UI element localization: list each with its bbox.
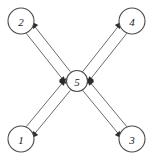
node-4[interactable]: 4 xyxy=(119,8,145,34)
node-5[interactable]: 5 xyxy=(67,71,88,92)
node-5-label: 5 xyxy=(74,76,80,88)
edge-line-5-to-1 xyxy=(34,90,70,134)
graph-diagram: 2 4 5 1 3 xyxy=(0,0,154,162)
edge-group-1-5 xyxy=(26,78,70,139)
edge-line-4-to-5 xyxy=(90,33,127,79)
edge-line-5-to-2 xyxy=(34,26,70,72)
edge-line-3-to-5 xyxy=(90,82,127,126)
node-3-label: 3 xyxy=(128,134,135,146)
node-3[interactable]: 3 xyxy=(119,126,145,152)
edge-line-5-to-3 xyxy=(83,90,119,134)
node-2[interactable]: 2 xyxy=(8,8,34,34)
edge-group-4-5 xyxy=(83,21,127,84)
edge-group-2-5 xyxy=(26,21,70,84)
node-2-label: 2 xyxy=(18,16,24,28)
node-4-label: 4 xyxy=(129,16,135,28)
node-1-label: 1 xyxy=(18,134,24,146)
edge-group-3-5 xyxy=(83,78,127,139)
edge-line-2-to-5 xyxy=(26,33,63,79)
edge-line-1-to-5 xyxy=(26,82,63,126)
graph-canvas: 2 4 5 1 3 xyxy=(0,0,154,162)
edge-line-5-to-4 xyxy=(83,26,119,72)
node-1[interactable]: 1 xyxy=(8,126,34,152)
